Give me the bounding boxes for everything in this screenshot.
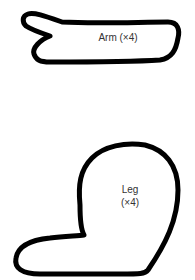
leg-label-line1: Leg [110, 183, 150, 196]
arm-label: Arm (×4) [88, 31, 148, 44]
leg-label-line2: (×4) [110, 196, 150, 209]
leg-label: Leg (×4) [110, 183, 150, 209]
leg-outline [16, 144, 178, 274]
